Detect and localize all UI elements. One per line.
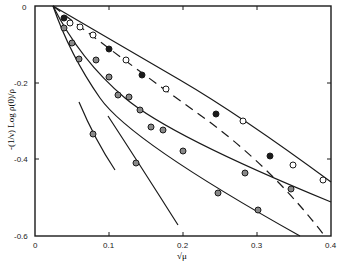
svg-text:-0.2: -0.2 — [14, 79, 28, 88]
plot-frame — [35, 6, 331, 236]
curve-3 — [53, 6, 300, 236]
svg-text:0.3: 0.3 — [251, 241, 263, 250]
chart: 0 0.1 0.2 0.3 0.4 0 -0.2 -0.4 -0.6 √μ -(… — [0, 0, 339, 263]
y-axis-label: -(1/ν) Log ρ(0)/ρ — [6, 88, 16, 150]
curve-5 — [79, 102, 115, 170]
svg-text:0.4: 0.4 — [325, 241, 337, 250]
dashed-limiting-law — [53, 6, 324, 235]
curves — [53, 6, 331, 236]
svg-text:0.2: 0.2 — [177, 241, 189, 250]
svg-text:0: 0 — [22, 3, 27, 12]
markers-half — [61, 25, 294, 213]
x-axis-label: √μ — [177, 251, 187, 261]
curve-4 — [108, 116, 178, 225]
x-ticks — [109, 6, 257, 236]
x-tick-labels: 0 0.1 0.2 0.3 0.4 — [33, 241, 337, 250]
svg-text:0.1: 0.1 — [103, 241, 115, 250]
y-tick-labels: 0 -0.2 -0.4 -0.6 — [14, 3, 28, 241]
svg-text:-0.4: -0.4 — [14, 155, 28, 164]
svg-text:0: 0 — [33, 241, 38, 250]
markers-open — [67, 20, 326, 183]
svg-text:-0.6: -0.6 — [14, 232, 28, 241]
